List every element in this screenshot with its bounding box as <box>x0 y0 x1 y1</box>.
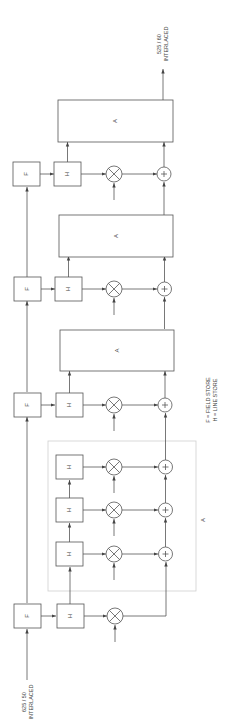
group-label: A <box>200 518 206 522</box>
line-store-2: H <box>56 542 83 566</box>
adder-icon <box>159 503 173 517</box>
svg-text:F: F <box>23 172 29 176</box>
svg-text:H: H <box>67 614 73 618</box>
svg-text:F: F <box>24 287 30 291</box>
svg-text:F: F <box>24 403 30 407</box>
multiplier-icon <box>106 459 122 475</box>
input-label: 625 / 50 INTERLACED <box>21 685 34 720</box>
svg-text:H: H <box>66 465 72 469</box>
accumulator-box-3: A <box>58 100 173 142</box>
svg-text:INTERLACED: INTERLACED <box>163 27 169 62</box>
svg-text:F: F <box>24 614 30 618</box>
line-store-3: H <box>56 498 83 522</box>
svg-text:A: A <box>113 234 119 238</box>
svg-text:H: H <box>65 287 71 291</box>
field-store-4: F <box>13 162 40 186</box>
svg-text:INTERLACED: INTERLACED <box>28 685 34 720</box>
svg-text:H: H <box>66 508 72 512</box>
svg-text:A: A <box>112 119 118 123</box>
adder-icon <box>158 282 172 296</box>
output-label: 525 / 60 INTERLACED <box>156 27 169 62</box>
block-diagram: A F F F F H H H H H <box>0 0 234 724</box>
adder-icon <box>159 460 173 474</box>
line-store-7: H <box>54 162 81 186</box>
field-store-1: F <box>14 604 41 628</box>
svg-text:F = FIELD STORE: F = FIELD STORE <box>205 377 211 423</box>
svg-text:525 / 60: 525 / 60 <box>156 34 162 54</box>
multiplier-icon <box>106 281 122 297</box>
svg-text:625 / 50: 625 / 50 <box>21 692 27 712</box>
accumulator-box-2: A <box>59 215 173 257</box>
line-store-5: H <box>56 393 83 417</box>
multiplier-icon <box>106 502 122 518</box>
adder-icon <box>158 398 172 412</box>
line-store-1: H <box>57 604 84 628</box>
field-store-2: F <box>14 393 41 417</box>
multiplier-icon <box>106 546 122 562</box>
svg-text:H: H <box>66 403 72 407</box>
line-store-6: H <box>55 277 82 301</box>
svg-text:A: A <box>114 348 120 352</box>
multiplier-icon <box>107 608 123 624</box>
accumulator-box-1: A <box>60 330 174 371</box>
multiplier-icon <box>106 166 122 182</box>
legend: F = FIELD STORE H = LINE STORE <box>205 377 218 423</box>
adder-icon <box>157 167 171 181</box>
svg-text:H = LINE STORE: H = LINE STORE <box>212 378 218 421</box>
field-store-3: F <box>14 277 41 301</box>
svg-text:H: H <box>64 172 70 176</box>
line-store-4: H <box>56 455 83 479</box>
svg-text:H: H <box>66 552 72 556</box>
mult-to-sum-line <box>123 597 166 616</box>
multiplier-icon <box>106 397 122 413</box>
adder-icon <box>159 547 173 561</box>
